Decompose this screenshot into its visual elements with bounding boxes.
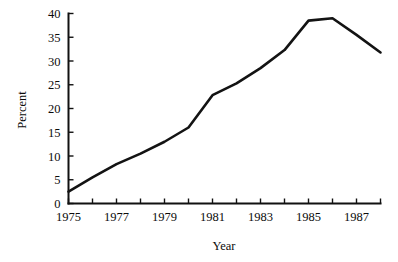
line-chart-figure: 0510152025303540 19751977197919811983198… xyxy=(0,0,398,262)
y-axis-title: Percent xyxy=(15,91,29,129)
y-tick-label: 40 xyxy=(48,7,61,21)
series-percent-line xyxy=(69,18,381,191)
x-axis-title: Year xyxy=(212,239,236,253)
y-tick-label: 15 xyxy=(48,126,61,140)
y-tick-label: 30 xyxy=(48,55,61,69)
x-tick-label: 1977 xyxy=(104,210,129,224)
data-series-line xyxy=(69,18,381,191)
y-tick-label: 25 xyxy=(48,78,61,92)
x-tick-label: 1985 xyxy=(296,210,321,224)
y-tick-label: 35 xyxy=(48,31,61,45)
x-tick-label: 1981 xyxy=(200,210,225,224)
x-axis-tick-labels: 1975197719791981198319851987 xyxy=(56,210,369,224)
y-tick-label: 10 xyxy=(48,150,61,164)
chart-plot-area: 0510152025303540 19751977197919811983198… xyxy=(0,0,398,262)
y-tick-label: 5 xyxy=(54,173,60,187)
chart-axes xyxy=(69,14,381,204)
y-axis-tick-labels: 0510152025303540 xyxy=(48,7,61,211)
y-tick-label: 20 xyxy=(48,102,61,116)
x-tick-label: 1983 xyxy=(248,210,273,224)
x-tick-label: 1975 xyxy=(56,210,81,224)
x-tick-label: 1979 xyxy=(152,210,177,224)
x-tick-label: 1987 xyxy=(344,210,369,224)
